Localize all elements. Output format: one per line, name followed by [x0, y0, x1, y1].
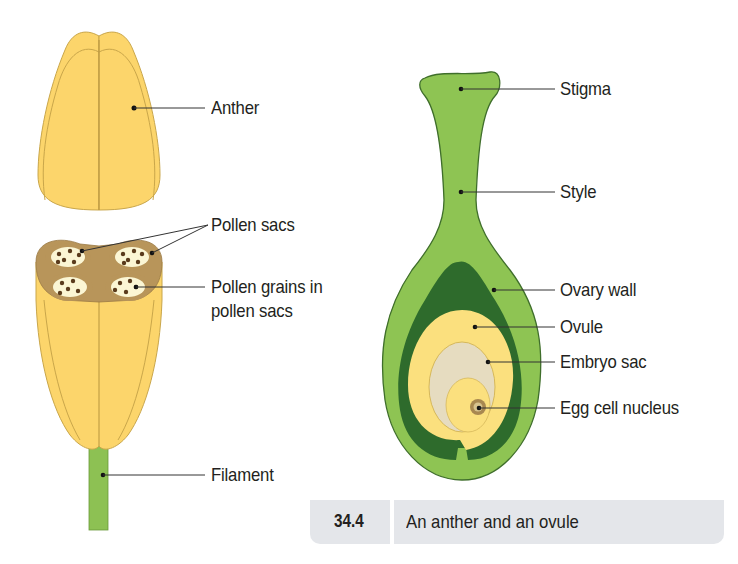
- label-pollen-grains-line1: Pollen grains in: [211, 276, 323, 298]
- figure-number: 34.4: [334, 511, 364, 532]
- label-pollen-grains-line2: pollen sacs: [211, 300, 293, 322]
- pollen-sac: [45, 243, 91, 271]
- label-egg-cell-nucleus: Egg cell nucleus: [560, 397, 679, 419]
- label-pollen-sacs: Pollen sacs: [211, 214, 295, 236]
- label-ovary-wall: Ovary wall: [560, 279, 636, 301]
- pollen-sac: [109, 243, 155, 271]
- carpel-illustration: [382, 72, 555, 480]
- label-anther: Anther: [211, 97, 259, 119]
- anther-cross-section: [36, 225, 208, 530]
- figure-title-box: An anther and an ovule: [394, 500, 724, 544]
- figure-caption: 34.4 An anther and an ovule: [310, 500, 724, 544]
- label-style: Style: [560, 181, 596, 203]
- label-ovule: Ovule: [560, 316, 603, 338]
- figure-number-box: 34.4: [310, 500, 390, 544]
- label-embryo-sac: Embryo sac: [560, 351, 647, 373]
- label-filament: Filament: [211, 464, 274, 486]
- label-stigma: Stigma: [560, 78, 611, 100]
- anther-illustration: [38, 32, 205, 210]
- pollen-sac: [47, 273, 93, 301]
- figure-title: An anther and an ovule: [406, 511, 579, 533]
